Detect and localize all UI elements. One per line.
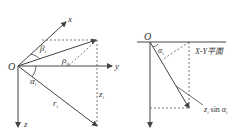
origin-label-right: O (144, 31, 151, 42)
leader-line (176, 86, 203, 105)
origin-label: O (8, 61, 15, 72)
right-diagram: O αi X-Y平面 zi sin αi (137, 31, 228, 127)
dashed-perpendicular (162, 42, 189, 60)
left-diagram: O x y z βi αi ρij ri zi (8, 14, 119, 129)
x-axis-label: x (67, 14, 72, 24)
projection-label: zi sin αi (203, 105, 228, 115)
z-axis-label: z (23, 119, 28, 129)
slanted-vector (150, 42, 189, 108)
z-i-label: zi (98, 89, 105, 100)
rho-label: ρij (61, 55, 70, 66)
r-label: ri (53, 98, 59, 109)
beta-label: βi (39, 43, 46, 54)
alpha-label: αi (30, 76, 37, 87)
plane-label: X-Y平面 (194, 47, 225, 56)
alpha-label-right: αi (158, 46, 164, 56)
y-axis-label: y (114, 61, 119, 71)
r-vector (18, 66, 97, 126)
diagram-canvas: O x y z βi αi ρij ri zi O αi X-Y平面 zi si… (0, 0, 244, 134)
beta-arc (31, 54, 40, 59)
rho-vector (18, 40, 96, 66)
dashed-diagonal (68, 40, 97, 66)
